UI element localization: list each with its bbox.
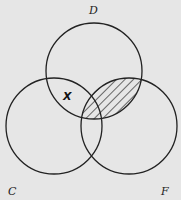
x-mark: X xyxy=(62,90,72,103)
venn-diagram: D C F X xyxy=(0,0,181,200)
label-d: D xyxy=(88,4,98,17)
circle-c xyxy=(6,78,102,174)
label-c: C xyxy=(8,185,17,198)
label-f: F xyxy=(160,185,169,198)
